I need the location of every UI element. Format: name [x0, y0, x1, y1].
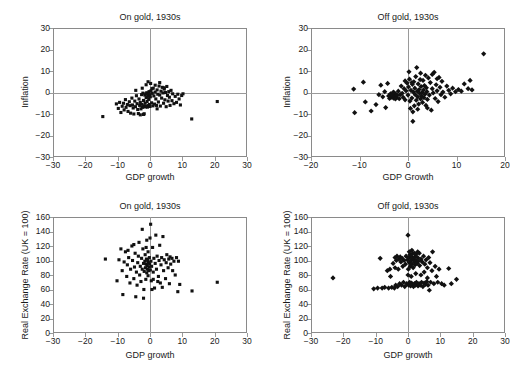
x-tick-label-top-right-2: 0 — [388, 160, 428, 170]
panel-title-top-right: Off gold, 1930s — [311, 12, 505, 22]
x-tick-label-top-right-4: 20 — [485, 160, 525, 170]
y-axis-title-top-right: Inflation — [282, 76, 292, 108]
y-tick-label-top-right-6: 30 — [266, 23, 308, 33]
y-tick-label-top-right-0: −30 — [266, 152, 308, 162]
x-tick-label-bottom-right-6: 30 — [485, 336, 525, 346]
y-tick-label-top-right-5: 20 — [266, 44, 308, 54]
y-tick-label-top-left-1: −20 — [8, 130, 50, 140]
x-tick-label-bottom-left-6: 30 — [227, 336, 267, 346]
y-axis-title-bottom-left: Real Exchange Rate (UK = 100) — [20, 211, 30, 340]
x-tick-label-top-right-0: −20 — [291, 160, 331, 170]
figure-scatter-grid: On gold, 1930s−30−20−100102030−30−20−100… — [0, 0, 526, 378]
zero-line-vertical-bottom-right — [408, 217, 409, 333]
y-tick-label-top-left-0: −30 — [8, 152, 50, 162]
x-tick-label-top-right-1: −10 — [340, 160, 380, 170]
zero-line-horizontal-top-right — [311, 93, 505, 94]
x-tick-label-top-right-3: 10 — [437, 160, 477, 170]
zero-line-vertical-bottom-left — [150, 217, 151, 333]
x-tick-label-top-left-6: 30 — [227, 160, 267, 170]
y-tick-label-top-left-6: 30 — [8, 23, 50, 33]
panel-title-bottom-left: On gold, 1930s — [53, 201, 247, 211]
x-axis-title-top-left: GDP growth — [53, 172, 247, 182]
x-axis-title-bottom-right: GDP growth — [311, 350, 505, 360]
y-tick-label-top-left-5: 20 — [8, 44, 50, 54]
panel-title-top-left: On gold, 1930s — [53, 12, 247, 22]
y-tick-label-top-right-2: −10 — [266, 109, 308, 119]
y-tick-label-top-right-1: −20 — [266, 130, 308, 140]
panel-title-bottom-right: Off gold, 1930s — [311, 201, 505, 211]
y-axis-title-bottom-right: Real Exchange Rate (UK = 100) — [282, 211, 292, 340]
x-axis-title-bottom-left: GDP growth — [53, 350, 247, 360]
y-axis-title-top-left: Inflation — [20, 76, 30, 108]
y-tick-label-top-right-4: 10 — [266, 66, 308, 76]
zero-line-horizontal-top-left — [53, 93, 247, 94]
y-tick-label-top-left-4: 10 — [8, 66, 50, 76]
x-axis-title-top-right: GDP Growth — [311, 172, 505, 182]
y-tick-label-top-left-2: −10 — [8, 109, 50, 119]
